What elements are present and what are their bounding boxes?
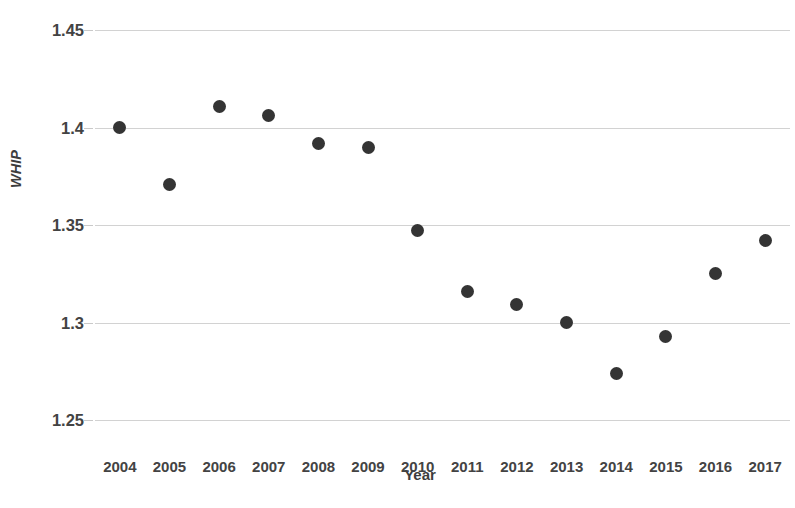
y-tick-mark <box>84 420 93 421</box>
gridline <box>95 225 790 226</box>
data-point <box>312 137 325 150</box>
x-tick-label: 2009 <box>341 458 395 475</box>
plot-area: 1.451.41.351.31.25 200420052006200720082… <box>95 30 790 420</box>
x-tick-label: 2015 <box>639 458 693 475</box>
data-point <box>262 109 275 122</box>
x-tick-label: 2011 <box>440 458 494 475</box>
data-point <box>709 267 722 280</box>
data-point <box>510 298 523 311</box>
data-point <box>461 285 474 298</box>
chart-title <box>0 0 795 5</box>
data-point <box>113 121 126 134</box>
y-tick-label: 1.45 <box>14 21 84 40</box>
y-tick-label: 1.4 <box>14 118 84 137</box>
x-tick-label: 2004 <box>93 458 147 475</box>
gridline <box>95 323 790 324</box>
scatter-chart-figure: WHIP Year 1.451.41.351.31.25 20042005200… <box>0 0 795 508</box>
x-tick-label: 2010 <box>391 458 445 475</box>
y-tick-label: 1.35 <box>14 216 84 235</box>
x-tick-label: 2007 <box>242 458 296 475</box>
data-point <box>411 224 424 237</box>
x-tick-label: 2005 <box>142 458 196 475</box>
data-point <box>163 178 176 191</box>
x-tick-label: 2016 <box>689 458 743 475</box>
x-tick-label: 2008 <box>291 458 345 475</box>
gridline <box>95 128 790 129</box>
y-axis-title: WHIP <box>8 150 24 188</box>
x-tick-label: 2017 <box>738 458 792 475</box>
y-tick-mark <box>84 323 93 324</box>
data-point <box>362 141 375 154</box>
x-tick-label: 2012 <box>490 458 544 475</box>
x-tick-label: 2013 <box>540 458 594 475</box>
x-tick-label: 2014 <box>589 458 643 475</box>
data-point <box>759 234 772 247</box>
y-tick-mark <box>84 128 93 129</box>
data-point <box>213 100 226 113</box>
y-tick-label: 1.3 <box>14 313 84 332</box>
y-tick-mark <box>84 30 93 31</box>
data-point <box>659 330 672 343</box>
y-tick-label: 1.25 <box>14 411 84 430</box>
gridline <box>95 30 790 31</box>
data-point <box>610 367 623 380</box>
gridline <box>95 420 790 421</box>
x-tick-label: 2006 <box>192 458 246 475</box>
data-point <box>560 316 573 329</box>
y-tick-mark <box>84 225 93 226</box>
